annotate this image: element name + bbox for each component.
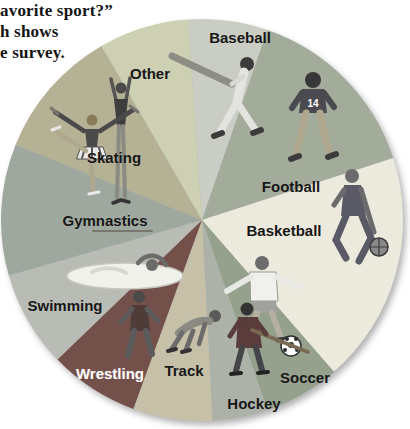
slice-label-hockey: Hockey bbox=[227, 395, 280, 412]
slice-label-other: Other bbox=[130, 65, 170, 82]
caption-text: avorite sport?” h shows e survey. bbox=[0, 0, 113, 63]
caption-line-1: avorite sport?” bbox=[0, 0, 113, 21]
slice-label-basketball: Basketball bbox=[246, 222, 321, 239]
slice-label-gymnastics: Gymnastics bbox=[62, 212, 147, 229]
pie-chart-figure: 14 bbox=[0, 0, 410, 429]
caption-line-2: h shows bbox=[0, 21, 113, 42]
slice-label-skating: Skating bbox=[87, 149, 141, 166]
slice-label-wrestling: Wrestling bbox=[76, 365, 144, 382]
slice-label-track: Track bbox=[164, 362, 203, 379]
slice-label-swimming: Swimming bbox=[27, 297, 102, 314]
slice-label-soccer: Soccer bbox=[280, 369, 330, 386]
caption-line-3: e survey. bbox=[0, 42, 113, 63]
slice-label-baseball: Baseball bbox=[209, 29, 271, 46]
slice-label-football: Football bbox=[262, 178, 320, 195]
